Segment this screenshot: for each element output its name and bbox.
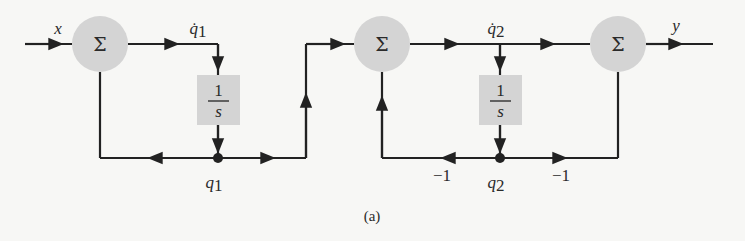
sigma-icon: Σ xyxy=(375,33,388,55)
gain-label-feedback-sum2: −1 xyxy=(433,166,451,185)
integrator-block-2: 1 s xyxy=(479,75,522,125)
pickoff-node-q2 xyxy=(495,153,505,163)
state-derivative-label-2: q̇2 xyxy=(488,19,505,41)
sigma-icon: Σ xyxy=(611,33,624,55)
integrator-denominator: s xyxy=(497,102,504,121)
integrator-numerator: 1 xyxy=(214,81,223,100)
summing-junction-1: Σ xyxy=(72,16,128,72)
state-derivative-label-1: q̇1 xyxy=(190,19,207,41)
state-label-2: q2 xyxy=(488,173,505,195)
gain-label-feedback-sum3: −1 xyxy=(552,166,570,185)
sigma-icon: Σ xyxy=(93,33,106,55)
integrator-denominator: s xyxy=(215,102,222,121)
integrator-numerator: 1 xyxy=(496,81,505,100)
integrator-block-1: 1 s xyxy=(197,75,240,125)
state-label-1: q1 xyxy=(206,173,223,195)
block-diagram: Σ Σ Σ 1 s 1 s x q̇1 q1 q̇2 q2 y −1 −1 (a… xyxy=(0,0,745,241)
summing-junction-3: Σ xyxy=(590,16,646,72)
figure-caption: (a) xyxy=(364,208,381,225)
pickoff-node-q1 xyxy=(213,153,223,163)
input-label: x xyxy=(53,19,62,38)
output-label: y xyxy=(670,16,680,35)
summing-junction-2: Σ xyxy=(354,16,410,72)
